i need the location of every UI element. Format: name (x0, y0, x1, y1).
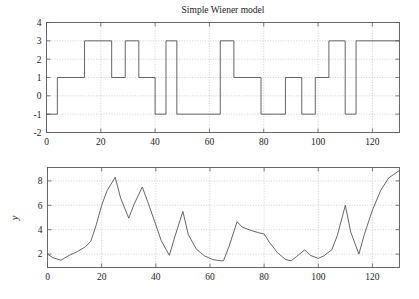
y-tick-label: 4 (38, 225, 43, 235)
x-tick-labels-top: 020406080100120 (44, 137, 380, 147)
gridlines-top (47, 23, 400, 133)
y-tick-label: -1 (34, 110, 42, 120)
page-title: Simple Wiener model (182, 5, 265, 15)
x-tick-label: 80 (259, 272, 269, 282)
y-tick-label: 1 (37, 73, 42, 83)
figure-container: Simple Wiener model -2-101234 0204060801… (0, 0, 419, 299)
x-tick-label: 20 (97, 272, 107, 282)
plot-frame-bottom (48, 168, 400, 268)
x-tick-label: 0 (44, 137, 49, 147)
y-tick-label: 3 (37, 36, 42, 46)
y-tick-label: 0 (37, 91, 42, 101)
input-plot-svg: Simple Wiener model -2-101234 0204060801… (0, 0, 419, 150)
y-tick-label: 2 (37, 55, 42, 65)
y-tick-label: -2 (34, 128, 42, 138)
output-response-plot: 2468 020406080100120 y (0, 150, 419, 299)
y-axis-label: y (9, 215, 20, 221)
y-tick-label: 4 (37, 18, 42, 28)
x-tick-labels-bottom: 020406080100120 (45, 272, 380, 282)
y-tick-label: 8 (38, 176, 43, 186)
x-tick-label: 80 (259, 137, 269, 147)
x-tick-label: 100 (311, 272, 326, 282)
output-signal-series (48, 171, 400, 261)
y-tick-labels-bottom: 2468 (38, 176, 43, 259)
x-tick-label: 40 (151, 272, 161, 282)
gridlines-bottom (48, 168, 400, 268)
y-tick-label: 6 (38, 201, 43, 211)
x-tick-label: 60 (205, 272, 215, 282)
y-tick-label: 2 (38, 249, 43, 259)
y-tick-labels-top: -2-101234 (34, 18, 42, 138)
tickmarks-bottom (48, 168, 400, 268)
x-tick-label: 60 (205, 137, 215, 147)
input-step-signal-plot: Simple Wiener model -2-101234 0204060801… (0, 0, 419, 150)
x-tick-label: 40 (150, 137, 160, 147)
x-tick-label: 100 (311, 137, 326, 147)
x-tick-label: 120 (365, 137, 380, 147)
output-plot-svg: 2468 020406080100120 y (0, 150, 419, 299)
x-tick-label: 0 (45, 272, 50, 282)
x-tick-label: 120 (365, 272, 380, 282)
x-tick-label: 20 (96, 137, 106, 147)
